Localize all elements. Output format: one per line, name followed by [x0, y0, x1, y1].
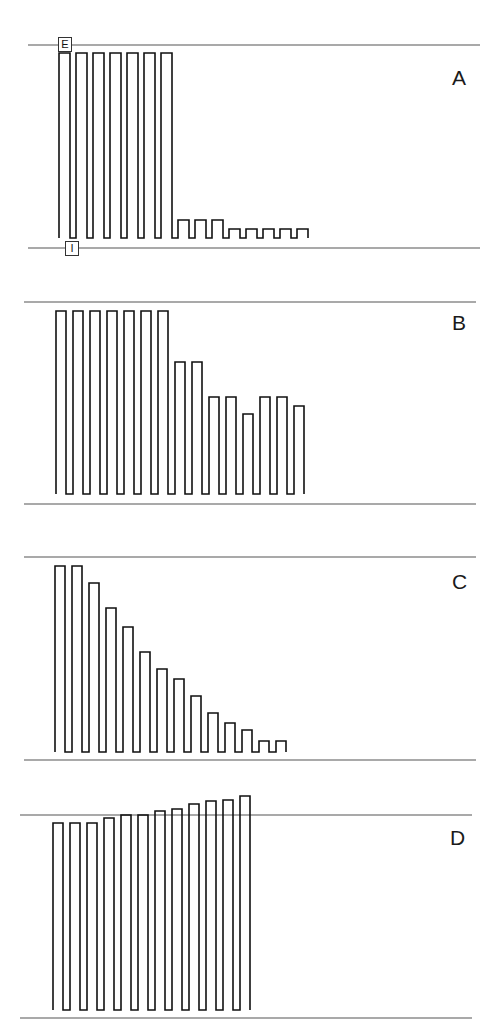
marker-box-i: I: [65, 241, 79, 256]
pulse-waveform: [56, 311, 304, 494]
pulse-waveform: [59, 53, 308, 238]
panel-d: [20, 796, 472, 1018]
panel-label-c: C: [452, 570, 467, 594]
panel-label-a: A: [452, 66, 466, 90]
panel-c: [24, 557, 476, 760]
marker-box-e: E: [58, 37, 72, 52]
panel-b: [24, 302, 476, 504]
pulse-waveform: [53, 796, 250, 1010]
pulse-waveform: [55, 566, 286, 752]
waveform-figure: [0, 0, 500, 1035]
panel-label-d: D: [450, 826, 465, 850]
panel-a: [28, 45, 480, 248]
panel-label-b: B: [452, 311, 466, 335]
